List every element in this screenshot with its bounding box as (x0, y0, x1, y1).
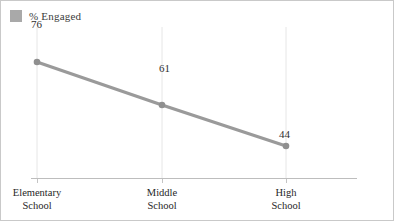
data-label-elementary-school: 76 (31, 19, 42, 30)
x-axis-tick-elementary-school (37, 179, 38, 183)
x-axis-tick-high-school (286, 179, 287, 183)
data-label-middle-school: 61 (159, 63, 170, 74)
data-point-elementary-school[interactable] (34, 59, 41, 66)
data-point-middle-school[interactable] (159, 102, 166, 109)
x-axis-label-middle-school: Middle School (107, 186, 217, 212)
x-axis-label-elementary-school: Elementary School (0, 186, 92, 212)
x-axis-label-elementary-school-line1: Elementary (0, 186, 92, 199)
chart-legend: % Engaged (10, 8, 81, 23)
x-axis-label-elementary-school-line2: School (0, 199, 92, 212)
data-point-high-school[interactable] (283, 143, 290, 150)
plot-area (1, 27, 394, 179)
chart-container: % Engaged 76 61 44 Elementary School Mid… (0, 0, 394, 221)
x-axis-category-labels: Elementary School Middle School High Sch… (1, 186, 394, 220)
x-axis-label-high-school-line1: High (231, 186, 341, 199)
x-axis-line (31, 178, 357, 179)
x-axis-label-middle-school-line2: School (107, 199, 217, 212)
x-axis-label-high-school: High School (231, 186, 341, 212)
legend-swatch-engaged (10, 10, 22, 22)
line-chart-svg (1, 27, 394, 179)
x-axis-label-high-school-line2: School (231, 199, 341, 212)
x-axis-tick-middle-school (162, 179, 163, 183)
x-axis-label-middle-school-line1: Middle (107, 186, 217, 199)
data-label-high-school: 44 (279, 129, 290, 140)
